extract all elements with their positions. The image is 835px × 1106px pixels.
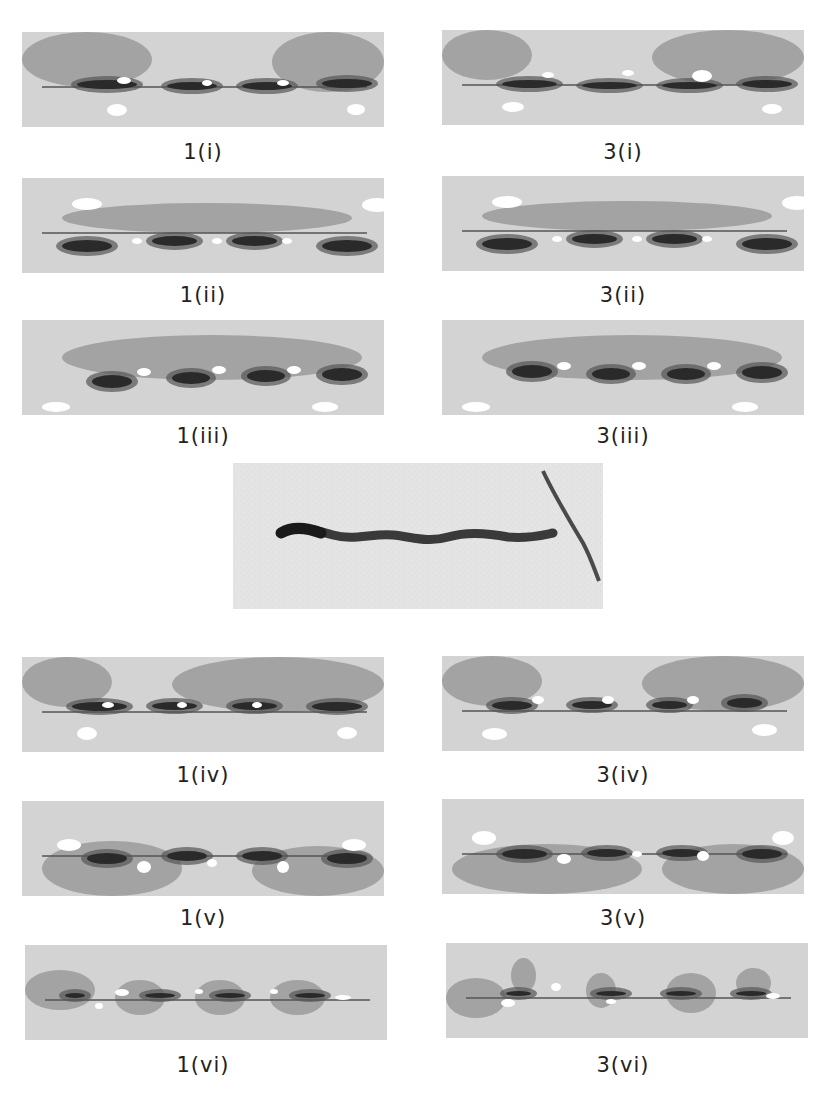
dark-contrast-lobe [322, 79, 372, 88]
mid-contrast-region [442, 30, 532, 80]
light-contrast-lobe [107, 104, 127, 116]
contrast-image [22, 657, 384, 752]
panel-label: 1(vi) [22, 1053, 384, 1077]
dark-contrast-lobe [587, 849, 627, 857]
light-contrast-lobe [287, 366, 301, 374]
light-contrast-lobe [115, 989, 129, 996]
dark-contrast-lobe [327, 853, 367, 864]
dark-contrast-lobe [72, 702, 127, 711]
light-contrast-lobe [557, 362, 571, 370]
dark-contrast-lobe [742, 849, 782, 859]
light-contrast-lobe [252, 702, 262, 708]
dark-contrast-lobe [652, 234, 697, 244]
dark-contrast-lobe [572, 234, 617, 244]
light-contrast-lobe [335, 995, 351, 1000]
panel-label: 3(iv) [442, 763, 804, 787]
dark-contrast-lobe [662, 849, 702, 857]
dark-contrast-lobe [652, 701, 687, 709]
panel-label: 1(v) [22, 906, 384, 930]
contrast-image [22, 178, 384, 273]
light-contrast-lobe [632, 851, 642, 857]
panel-1-iii [22, 320, 384, 415]
contrast-image [442, 320, 804, 415]
dark-contrast-lobe [582, 82, 637, 89]
light-contrast-lobe [766, 993, 780, 999]
dark-contrast-lobe [742, 80, 792, 88]
contrast-image [25, 945, 387, 1040]
panel-3-vi [446, 943, 808, 1038]
light-contrast-lobe [270, 989, 278, 994]
dark-contrast-lobe [152, 236, 197, 246]
light-contrast-lobe [137, 861, 151, 873]
dark-contrast-lobe [742, 238, 792, 250]
light-contrast-lobe [687, 696, 699, 704]
light-contrast-lobe [95, 1003, 103, 1009]
panel-label: 3(ii) [442, 283, 804, 307]
dark-contrast-lobe [232, 236, 277, 246]
light-contrast-lobe [277, 80, 289, 86]
panel-3-iii [442, 320, 804, 415]
light-contrast-lobe [692, 70, 712, 82]
panel-label: 3(vi) [442, 1053, 804, 1077]
light-contrast-lobe [697, 851, 709, 861]
panel-label: 1(i) [22, 140, 384, 164]
light-contrast-lobe [102, 702, 114, 708]
light-contrast-lobe [342, 839, 366, 851]
light-contrast-lobe [632, 362, 646, 370]
light-contrast-lobe [202, 80, 212, 86]
light-contrast-lobe [347, 104, 365, 115]
panel-label: 3(v) [442, 906, 804, 930]
light-contrast-lobe [177, 702, 187, 708]
contrast-image [442, 30, 804, 125]
dark-contrast-lobe [482, 238, 532, 250]
light-contrast-lobe [501, 999, 515, 1007]
dark-contrast-lobe [312, 702, 362, 711]
light-contrast-lobe [132, 238, 142, 244]
light-contrast-lobe [606, 999, 616, 1004]
dark-contrast-lobe [727, 698, 762, 708]
panel-3-ii [442, 176, 804, 271]
dark-contrast-lobe [215, 993, 245, 998]
contrast-image [22, 320, 384, 415]
dark-contrast-lobe [167, 851, 207, 861]
dark-contrast-lobe [666, 991, 696, 996]
light-contrast-lobe [195, 989, 203, 994]
light-contrast-lobe [732, 402, 758, 412]
light-contrast-lobe [42, 402, 70, 412]
light-contrast-lobe [337, 727, 357, 739]
dark-contrast-lobe [242, 851, 282, 861]
light-contrast-lobe [472, 831, 496, 845]
light-contrast-lobe [282, 238, 292, 244]
panel-1-ii [22, 178, 384, 273]
panel-1-iv [22, 657, 384, 752]
light-contrast-lobe [137, 368, 151, 376]
light-contrast-lobe [551, 983, 561, 991]
light-contrast-lobe [312, 402, 338, 412]
contrast-image [22, 801, 384, 896]
light-contrast-lobe [492, 196, 522, 208]
light-contrast-lobe [482, 728, 507, 740]
panel-label: 1(iii) [22, 424, 384, 448]
dark-contrast-lobe [512, 365, 552, 378]
light-contrast-lobe [532, 696, 544, 704]
mid-contrast-region [482, 201, 772, 231]
light-contrast-lobe [707, 362, 721, 370]
light-contrast-lobe [502, 102, 524, 112]
panel-1-v [22, 801, 384, 896]
light-contrast-lobe [552, 236, 562, 242]
light-contrast-lobe [772, 831, 794, 845]
dark-contrast-lobe [736, 991, 766, 996]
light-contrast-lobe [702, 236, 712, 242]
light-contrast-lobe [557, 854, 571, 864]
panel-label: 1(iv) [22, 763, 384, 787]
light-contrast-lobe [752, 724, 777, 736]
dark-contrast-lobe [172, 372, 210, 384]
light-contrast-lobe [462, 402, 490, 412]
dark-contrast-lobe [62, 240, 112, 252]
panel-1-i [22, 32, 384, 127]
dark-contrast-lobe [502, 80, 557, 88]
contrast-image [446, 943, 808, 1038]
dark-contrast-lobe [322, 368, 362, 381]
light-contrast-lobe [207, 859, 217, 867]
panel-1-vi [25, 945, 387, 1040]
